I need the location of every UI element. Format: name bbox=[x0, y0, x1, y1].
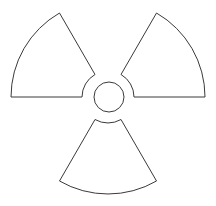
blade-upper-left bbox=[11, 13, 95, 97]
blade-bottom bbox=[60, 120, 157, 194]
center-circle bbox=[94, 82, 124, 112]
radiation-symbol bbox=[0, 0, 216, 206]
blade-upper-right bbox=[121, 13, 205, 97]
